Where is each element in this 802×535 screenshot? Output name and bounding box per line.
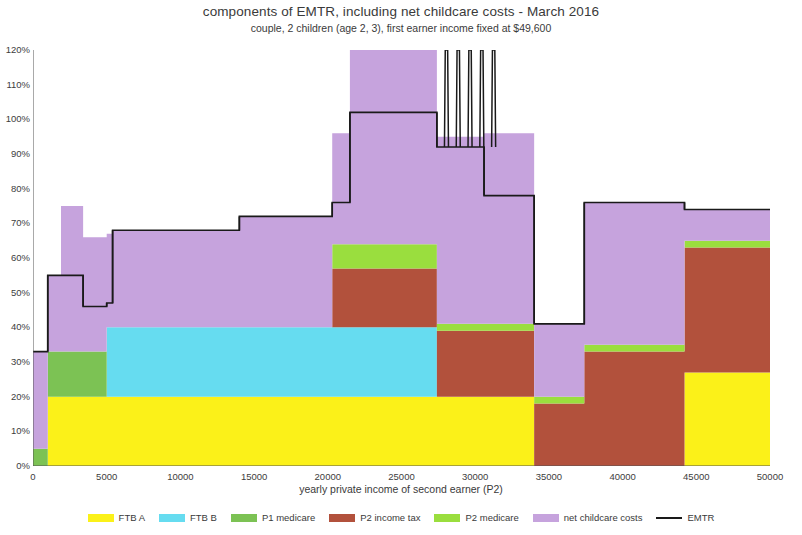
x-tick-20000: 20000 xyxy=(298,471,358,482)
x-tick-25000: 25000 xyxy=(372,471,432,482)
legend-item-net-childcare-costs[interactable]: net childcare costs xyxy=(533,512,643,523)
y-tick-70%: 70% xyxy=(0,217,30,228)
emtr-spike-4 xyxy=(480,50,484,147)
plot-area xyxy=(33,50,770,466)
legend-swatch-icon xyxy=(88,514,114,522)
legend-item-ftb-b[interactable]: FTB B xyxy=(159,512,217,523)
legend-swatch-icon xyxy=(159,514,185,522)
legend-swatch-icon xyxy=(434,514,460,522)
legend-item-p2-income-tax[interactable]: P2 income tax xyxy=(329,512,420,523)
legend-label: net childcare costs xyxy=(564,512,643,523)
title-block: components of EMTR, including net childc… xyxy=(0,4,802,34)
legend-swatch-icon xyxy=(329,514,355,522)
legend-item-p1-medicare[interactable]: P1 medicare xyxy=(231,512,315,523)
legend-label: P2 income tax xyxy=(360,512,420,523)
chart-subtitle: couple, 2 children (age 2, 3), first ear… xyxy=(0,22,802,34)
x-tick-40000: 40000 xyxy=(593,471,653,482)
x-tick-45000: 45000 xyxy=(666,471,726,482)
y-tick-60%: 60% xyxy=(0,252,30,263)
x-tick-30000: 30000 xyxy=(445,471,505,482)
legend-item-p2-medicare[interactable]: P2 medicare xyxy=(434,512,518,523)
area-band-ftb-b xyxy=(107,327,437,396)
legend-line-icon xyxy=(656,517,682,519)
chart-legend: FTB AFTB BP1 medicareP2 income taxP2 med… xyxy=(0,512,802,523)
y-tick-110%: 110% xyxy=(0,79,30,90)
y-tick-10%: 10% xyxy=(0,425,30,436)
emtr-spike-2 xyxy=(456,50,460,147)
legend-item-emtr[interactable]: EMTR xyxy=(656,512,714,523)
y-tick-0%: 0% xyxy=(0,460,30,471)
chart-title: components of EMTR, including net childc… xyxy=(0,4,802,19)
x-tick-5000: 5000 xyxy=(77,471,137,482)
legend-label: FTB A xyxy=(119,512,145,523)
y-tick-90%: 90% xyxy=(0,148,30,159)
emtr-spike-3 xyxy=(468,50,472,147)
y-tick-120%: 120% xyxy=(0,44,30,55)
emtr-spike-1 xyxy=(444,50,448,147)
legend-swatch-icon xyxy=(231,514,257,522)
x-tick-0: 0 xyxy=(3,471,63,482)
x-tick-10000: 10000 xyxy=(150,471,210,482)
legend-label: P1 medicare xyxy=(262,512,315,523)
legend-swatch-icon xyxy=(533,514,559,522)
x-axis-title: yearly private income of second earner (… xyxy=(0,483,802,495)
y-tick-40%: 40% xyxy=(0,321,30,332)
legend-label: EMTR xyxy=(687,512,714,523)
chart-root: components of EMTR, including net childc… xyxy=(0,0,802,535)
legend-item-ftb-a[interactable]: FTB A xyxy=(88,512,145,523)
y-tick-100%: 100% xyxy=(0,113,30,124)
y-tick-30%: 30% xyxy=(0,356,30,367)
y-tick-50%: 50% xyxy=(0,287,30,298)
x-tick-50000: 50000 xyxy=(740,471,800,482)
x-tick-35000: 35000 xyxy=(519,471,579,482)
y-tick-80%: 80% xyxy=(0,183,30,194)
emtr-spike-5 xyxy=(492,50,496,147)
x-tick-15000: 15000 xyxy=(224,471,284,482)
stacked-area-plot xyxy=(33,50,770,466)
y-tick-20%: 20% xyxy=(0,391,30,402)
legend-label: FTB B xyxy=(190,512,217,523)
legend-label: P2 medicare xyxy=(465,512,518,523)
